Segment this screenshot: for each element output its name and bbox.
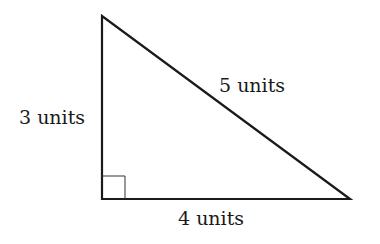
hypotenuse-label: 5 units	[219, 74, 285, 96]
right-angle-marker	[102, 176, 125, 199]
right-triangle-diagram: 3 units 5 units 4 units	[0, 0, 380, 244]
vertical-side-label: 3 units	[19, 106, 85, 128]
horizontal-side-label: 4 units	[178, 207, 244, 229]
triangle-shape	[102, 16, 350, 199]
